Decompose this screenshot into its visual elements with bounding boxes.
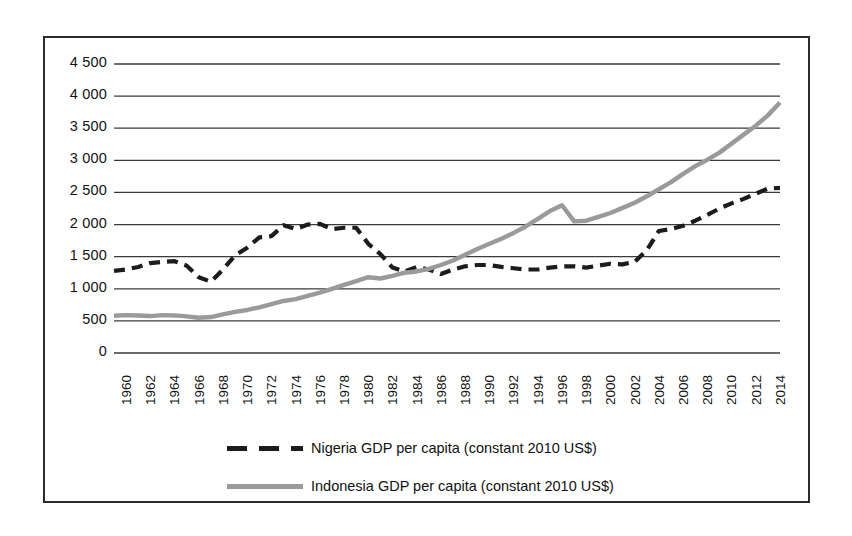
x-axis-tick-label: 1978 xyxy=(337,375,352,405)
legend-label: Nigeria GDP per capita (constant 2010 US… xyxy=(311,440,597,456)
x-axis-tick-label: 1984 xyxy=(410,375,425,405)
x-axis-tick-label: 2014 xyxy=(773,375,788,405)
x-axis-tick-label: 2010 xyxy=(724,375,739,405)
y-axis-tick-label: 1 000 xyxy=(45,279,107,295)
x-axis-tick-label: 1970 xyxy=(240,375,255,405)
legend-label: Indonesia GDP per capita (constant 2010 … xyxy=(311,478,614,494)
x-axis-tick-label: 2004 xyxy=(652,375,667,405)
chart-figure-border: 4 5004 0003 5003 0002 5002 0001 5001 000… xyxy=(43,36,810,503)
x-axis-tick-label: 1994 xyxy=(531,375,546,405)
x-axis-tick-label: 1972 xyxy=(264,375,279,405)
y-axis-tick-label: 2 500 xyxy=(45,182,107,198)
x-axis-tick-label: 2006 xyxy=(676,375,691,405)
y-axis-tick-label: 4 000 xyxy=(45,86,107,102)
y-axis-tick-label: 3 500 xyxy=(45,118,107,134)
x-axis-tick-label: 1986 xyxy=(434,375,449,405)
legend-swatch-dashed xyxy=(227,446,303,451)
x-axis-tick-label: 1966 xyxy=(192,375,207,405)
gridlines xyxy=(114,64,780,353)
y-axis-tick-label: 500 xyxy=(45,311,107,327)
legend-swatch-solid xyxy=(227,484,303,489)
x-axis-tick-label: 2008 xyxy=(700,375,715,405)
x-axis-tick-label: 1996 xyxy=(555,375,570,405)
x-axis-tick-label: 1988 xyxy=(458,375,473,405)
x-axis-tick-label: 1962 xyxy=(143,375,158,405)
x-axis-tick-label: 1998 xyxy=(579,375,594,405)
x-axis-tick-label: 1964 xyxy=(167,375,182,405)
legend-item-1: Indonesia GDP per capita (constant 2010 … xyxy=(227,476,614,496)
x-axis-tick-label: 2002 xyxy=(628,375,643,405)
x-axis-tick-label: 1992 xyxy=(506,375,521,405)
x-axis-tick-label: 1976 xyxy=(313,375,328,405)
x-axis-tick-label: 1982 xyxy=(385,375,400,405)
x-axis-tick-label: 1968 xyxy=(216,375,231,405)
y-axis-tick-label: 2 000 xyxy=(45,215,107,231)
legend-item-0: Nigeria GDP per capita (constant 2010 US… xyxy=(227,438,597,458)
line-chart-canvas xyxy=(45,38,812,505)
y-axis-tick-label: 4 500 xyxy=(45,54,107,70)
x-axis-tick-label: 2000 xyxy=(603,375,618,405)
y-axis-tick-label: 3 000 xyxy=(45,150,107,166)
series-line-1 xyxy=(114,103,780,318)
series-line-0 xyxy=(114,188,780,282)
x-axis-tick-label: 1990 xyxy=(482,375,497,405)
y-axis-tick-label: 1 500 xyxy=(45,247,107,263)
x-axis-tick-label: 2012 xyxy=(749,375,764,405)
chart-plot-wrapper: 4 5004 0003 5003 0002 5002 0001 5001 000… xyxy=(45,38,812,505)
x-axis-tick-label: 1980 xyxy=(361,375,376,405)
x-axis-tick-label: 1974 xyxy=(289,375,304,405)
y-axis-tick-label: 0 xyxy=(45,343,107,359)
x-axis-tick-label: 1960 xyxy=(119,375,134,405)
